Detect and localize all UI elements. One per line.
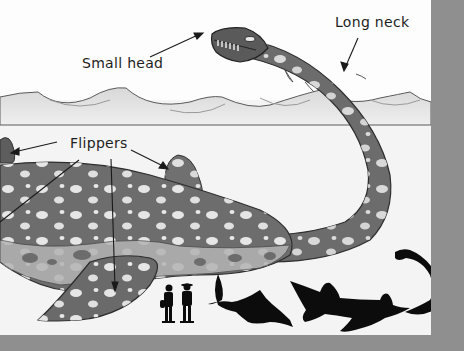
left-flipper bbox=[0, 138, 15, 163]
water-waves bbox=[0, 88, 431, 125]
human-silhouettes bbox=[160, 284, 194, 324]
label-flippers: Flippers bbox=[70, 135, 128, 151]
illustration-panel: Small head Long neck Flippers bbox=[0, 0, 431, 335]
plesiosaur-illustration bbox=[0, 0, 431, 335]
plesiosaur-silhouette bbox=[395, 249, 431, 314]
eye bbox=[245, 37, 255, 42]
label-long-neck: Long neck bbox=[335, 14, 409, 30]
label-small-head: Small head bbox=[82, 55, 163, 71]
pliosaur-silhouette bbox=[290, 281, 410, 332]
ichthyosaur-silhouette bbox=[208, 274, 293, 327]
